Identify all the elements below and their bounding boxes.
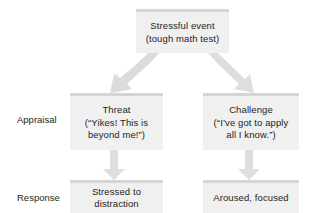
node-challenge-line1: Challenge: [206, 104, 296, 117]
node-threat-line2: (“Yikes! This is: [73, 117, 160, 130]
node-stressful-event: Stressful event (tough math test): [136, 9, 229, 53]
node-aroused-line1: Aroused, focused: [206, 192, 296, 205]
arrow-event-to-challenge-icon: [207, 52, 263, 96]
node-stressful-event-line1: Stressful event: [139, 20, 226, 33]
row-label-response: Response: [17, 192, 60, 204]
node-aroused-focused-text: Aroused, focused: [203, 192, 299, 205]
node-challenge-text: Challenge (“I’ve got to apply all I know…: [203, 104, 299, 142]
node-stressed-line1: Stressed to: [73, 186, 160, 199]
node-challenge-line2: (“I’ve got to apply: [206, 117, 296, 130]
arrow-threat-to-stressed-icon: [100, 149, 128, 181]
node-threat-text: Threat (“Yikes! This is beyond me!”): [70, 104, 163, 142]
arrow-event-to-threat-icon: [104, 52, 160, 96]
node-stressed-line2: distraction: [73, 198, 160, 211]
node-stressful-event-line2: (tough math test): [139, 33, 226, 46]
arrow-challenge-to-aroused-icon: [235, 149, 263, 181]
stress-appraisal-diagram: Appraisal Response Stressful event (toug…: [0, 0, 311, 213]
node-threat: Threat (“Yikes! This is beyond me!”): [70, 93, 163, 150]
node-threat-line3: beyond me!”): [73, 129, 160, 142]
node-challenge-line3: all I know.”): [206, 129, 296, 142]
node-challenge: Challenge (“I’ve got to apply all I know…: [203, 93, 299, 150]
node-aroused-focused: Aroused, focused: [203, 180, 299, 213]
node-stressed-to-distraction-text: Stressed to distraction: [70, 186, 163, 211]
node-stressful-event-text: Stressful event (tough math test): [136, 20, 229, 45]
node-threat-line1: Threat: [73, 104, 160, 117]
node-stressed-to-distraction: Stressed to distraction: [70, 180, 163, 213]
row-label-appraisal: Appraisal: [17, 114, 57, 126]
